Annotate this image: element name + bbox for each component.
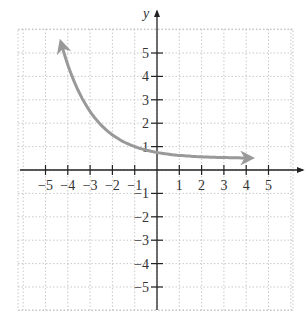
y-tick-label: −2: [134, 210, 149, 225]
y-tick-label: 1: [142, 140, 149, 155]
x-tick-label: 3: [220, 178, 227, 193]
y-axis-label: y: [141, 6, 150, 21]
x-tick-label: −3: [83, 178, 98, 193]
axes: [20, 11, 303, 310]
y-tick-label: −4: [134, 257, 149, 272]
x-tick-label: 1: [176, 178, 183, 193]
x-tick-label: −2: [105, 178, 120, 193]
x-tick-label: −4: [60, 178, 75, 193]
coordinate-plane: −5−4−3−2−112345−5−4−3−2−112345 y: [0, 0, 305, 325]
y-tick-label: −3: [134, 233, 149, 248]
x-tick-label: 5: [265, 178, 272, 193]
y-tick-label: −5: [134, 280, 149, 295]
y-tick-label: 4: [142, 69, 149, 84]
y-tick-label: 2: [142, 116, 149, 131]
x-tick-label: −5: [38, 178, 53, 193]
x-tick-label: 4: [243, 178, 250, 193]
x-tick-label: 2: [198, 178, 205, 193]
exponential-curve: [61, 43, 251, 158]
y-tick-label: 3: [142, 93, 149, 108]
y-tick-label: 5: [142, 46, 149, 61]
y-tick-label: −1: [134, 186, 149, 201]
